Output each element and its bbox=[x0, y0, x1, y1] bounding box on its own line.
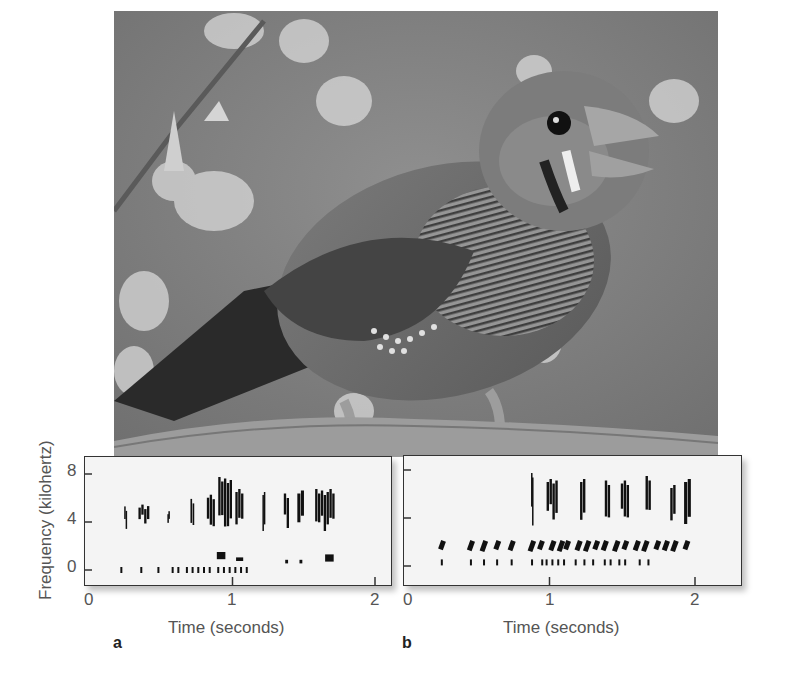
bird-illustration bbox=[114, 11, 718, 457]
panel-label-a: a bbox=[113, 634, 122, 652]
x-tick-a-1: 1 bbox=[227, 590, 236, 610]
x-tick-a-2: 2 bbox=[370, 590, 379, 610]
spectrogram-panel-a bbox=[84, 456, 392, 586]
x-axis-label-a: Time (seconds) bbox=[168, 618, 285, 638]
x-tick-a-0: 0 bbox=[84, 590, 93, 610]
spectrogram-a bbox=[85, 457, 391, 585]
y-tick-8: 8 bbox=[67, 461, 76, 481]
x-axis-label-b: Time (seconds) bbox=[503, 618, 620, 638]
y-axis-label: Frequency (kilohertz) bbox=[36, 400, 60, 600]
x-tick-b-2: 2 bbox=[690, 590, 699, 610]
panel-label-b: b bbox=[402, 634, 412, 652]
spectrogram-panel-b bbox=[403, 455, 742, 586]
y-tick-4: 4 bbox=[67, 509, 76, 529]
x-tick-b-1: 1 bbox=[545, 590, 554, 610]
y-tick-0: 0 bbox=[67, 557, 76, 577]
bird-photo bbox=[114, 11, 718, 457]
x-tick-b-0: 0 bbox=[403, 590, 412, 610]
spectrogram-b bbox=[404, 456, 741, 585]
